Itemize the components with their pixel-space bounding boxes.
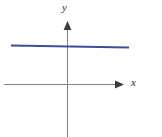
x-axis-arrowhead (115, 81, 124, 89)
y-axis-label: y (62, 2, 67, 13)
x-axis-label: x (131, 77, 136, 88)
constant-function-line (11, 45, 129, 47)
coordinate-plane-figure: x y (0, 0, 162, 137)
y-axis-arrowhead (64, 21, 72, 30)
plot-canvas (0, 0, 162, 137)
